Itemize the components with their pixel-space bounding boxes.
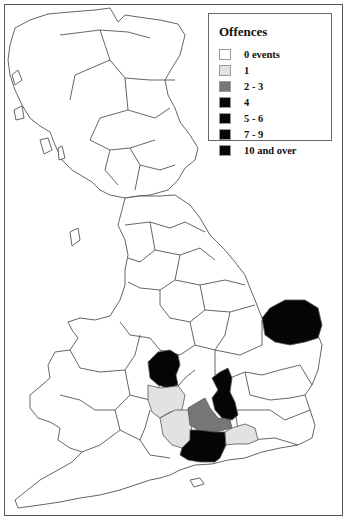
legend-swatch <box>219 81 231 92</box>
legend-swatch <box>219 49 231 60</box>
legend-item: 2 - 3 <box>219 78 331 94</box>
scotland-outline <box>8 8 198 198</box>
legend: Offences 0 events 1 2 - 3 4 5 - 6 7 - 9 … <box>208 13 332 141</box>
legend-swatch <box>219 65 231 76</box>
legend-label: 1 <box>244 65 249 76</box>
legend-item: 10 and over <box>219 142 331 158</box>
legend-label: 10 and over <box>244 145 297 156</box>
legend-label: 4 <box>244 97 249 108</box>
legend-item: 4 <box>219 94 331 110</box>
legend-label: 2 - 3 <box>244 81 263 92</box>
legend-label: 0 events <box>244 49 280 60</box>
legend-label: 7 - 9 <box>244 129 263 140</box>
region-norfolk <box>262 300 322 345</box>
legend-item: 0 events <box>219 46 331 62</box>
legend-item: 5 - 6 <box>219 110 331 126</box>
legend-label: 5 - 6 <box>244 113 263 124</box>
legend-item: 1 <box>219 62 331 78</box>
legend-swatch <box>219 97 231 108</box>
legend-swatch <box>219 129 231 140</box>
legend-swatch <box>219 113 231 124</box>
legend-title: Offences <box>219 24 331 40</box>
legend-swatch <box>219 145 231 156</box>
legend-item: 7 - 9 <box>219 126 331 142</box>
